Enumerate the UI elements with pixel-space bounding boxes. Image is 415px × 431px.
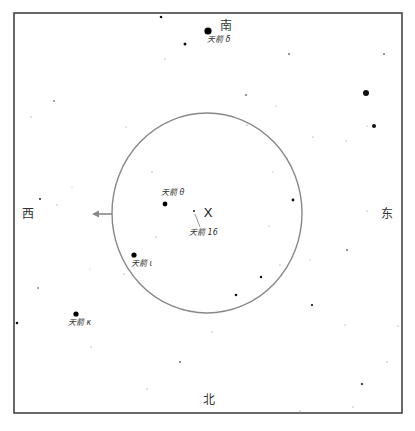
star	[90, 269, 91, 270]
named-star	[73, 311, 78, 316]
star-label-sge-theta: 天箭 θ	[161, 189, 184, 197]
star-label-sge-kappa: 天箭 κ	[68, 319, 91, 327]
star-label-sge-iota: 天箭 ι	[131, 260, 152, 268]
star	[72, 187, 73, 188]
star	[211, 331, 212, 332]
star	[164, 58, 165, 59]
named-star	[193, 210, 195, 212]
star	[37, 287, 38, 288]
star	[126, 127, 127, 128]
star	[30, 116, 31, 117]
star	[299, 410, 300, 411]
star	[269, 226, 270, 227]
star	[372, 124, 376, 128]
star	[123, 273, 124, 274]
star	[397, 325, 398, 326]
star	[345, 325, 346, 326]
star	[352, 406, 353, 407]
star-label-sge-delta: 天箭 δ	[207, 36, 230, 44]
star	[53, 100, 54, 101]
star	[39, 198, 41, 200]
star	[288, 53, 290, 55]
star	[90, 346, 91, 347]
star	[312, 136, 313, 137]
star	[273, 172, 274, 173]
star	[346, 141, 347, 142]
star	[260, 276, 262, 278]
star	[361, 383, 363, 385]
star	[16, 322, 19, 325]
direction-label-south: 南	[220, 20, 232, 32]
star	[160, 16, 163, 19]
star	[184, 43, 187, 46]
star	[179, 361, 181, 363]
star	[146, 388, 147, 389]
star	[367, 126, 368, 127]
direction-label-west: 西	[22, 208, 34, 220]
star	[386, 361, 387, 362]
star	[245, 94, 247, 96]
direction-label-north: 北	[203, 394, 215, 406]
direction-label-east: 东	[381, 208, 393, 220]
star	[155, 236, 156, 237]
star	[235, 294, 238, 297]
star	[346, 249, 348, 251]
star-label-sge-16: 天箭 16	[189, 229, 218, 237]
star	[56, 204, 57, 205]
named-star	[163, 202, 168, 207]
named-star	[131, 252, 136, 257]
star	[292, 199, 295, 202]
star	[311, 304, 313, 306]
star	[383, 53, 385, 55]
star	[151, 171, 152, 172]
star	[246, 124, 247, 125]
star	[363, 90, 369, 96]
star	[276, 106, 277, 107]
star	[310, 260, 311, 261]
named-star	[204, 27, 211, 34]
target-marker: X	[204, 206, 213, 219]
star	[366, 210, 367, 211]
star	[279, 264, 280, 265]
